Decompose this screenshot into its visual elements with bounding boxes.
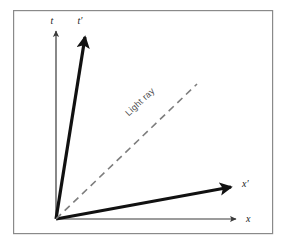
axis-label-t-prime: t′ [78,15,84,26]
axis-label-x-prime: x′ [241,178,249,189]
spacetime-diagram-figure: t t′ x x′ Light ray [0,0,287,244]
axis-label-x: x [245,213,251,224]
axis-label-t: t [51,15,54,26]
diagram-frame-border [14,11,273,234]
spacetime-diagram-canvas: t t′ x x′ Light ray [0,0,287,244]
